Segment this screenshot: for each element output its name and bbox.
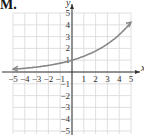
y-tick-label: −2 <box>60 91 70 101</box>
x-tick-label: −2 <box>44 74 54 84</box>
x-tick-label: 2 <box>93 74 98 84</box>
x-tick-label: 1 <box>82 74 87 84</box>
x-tick-label: −3 <box>32 74 42 84</box>
y-tick-label: −5 <box>60 126 70 135</box>
x-axis-label: x <box>140 62 144 73</box>
y-tick-label: 4 <box>66 20 71 30</box>
y-axis-arrow-icon <box>70 4 74 9</box>
x-tick-label: 3 <box>105 74 110 84</box>
x-axis-arrow-icon <box>135 70 140 74</box>
y-tick-label: −3 <box>60 102 70 112</box>
x-tick-label: −4 <box>20 74 30 84</box>
y-tick-label: −4 <box>60 114 70 124</box>
x-tick-label: 4 <box>117 74 122 84</box>
graph: xy−5−4−3−2−11234554321−1−2−3−4−5 <box>0 0 144 135</box>
y-tick-label: 5 <box>66 8 71 18</box>
y-tick-label: 2 <box>66 43 71 53</box>
y-axis-label: y <box>65 0 71 8</box>
y-tick-label: −1 <box>60 79 70 89</box>
y-tick-label: 3 <box>66 32 71 42</box>
x-tick-label: 5 <box>129 74 134 84</box>
x-tick-label: −5 <box>8 74 18 84</box>
